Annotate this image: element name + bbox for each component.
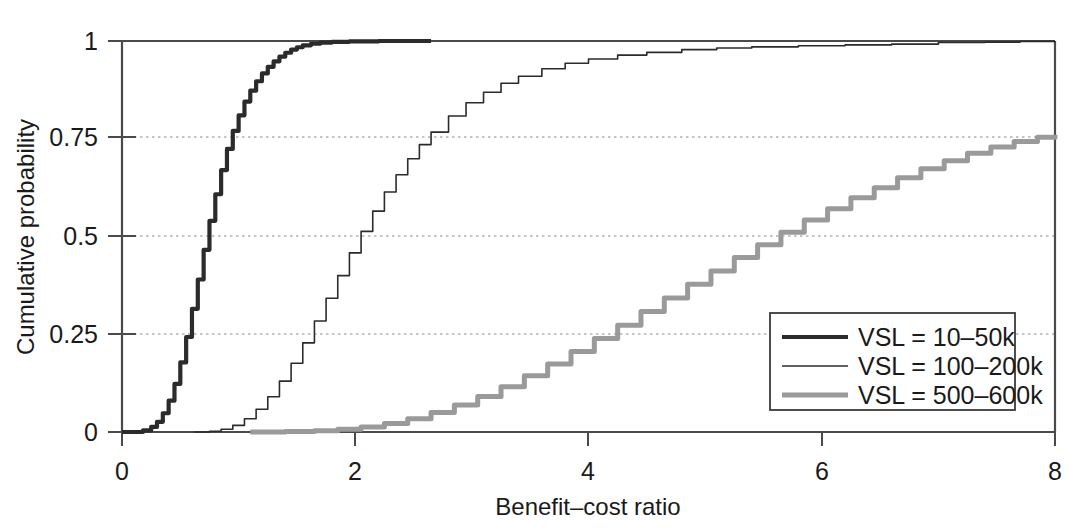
x-tick-label-4: 4 [581, 457, 595, 485]
legend-label-vsl-100-200k: VSL = 100–200k [858, 352, 1043, 380]
legend-label-vsl-500-600k: VSL = 500–600k [858, 381, 1043, 409]
x-tick-label-8: 8 [1048, 457, 1062, 485]
y-axis-tick-labels: 1 0.75 0.5 0.25 0 [49, 27, 98, 446]
y-tick-label-1: 1 [84, 27, 98, 55]
legend-label-vsl-10-50k: VSL = 10–50k [858, 323, 1015, 351]
series-line-1 [122, 41, 431, 432]
y-axis-title: Cumulative probability [12, 119, 39, 355]
chart-page: 1 0.75 0.5 0.25 0 0 2 4 6 8 Benefit–cost… [0, 0, 1086, 530]
x-axis-title: Benefit–cost ratio [495, 493, 680, 520]
cumulative-probability-chart: 1 0.75 0.5 0.25 0 0 2 4 6 8 Benefit–cost… [0, 0, 1086, 530]
x-tick-label-2: 2 [348, 457, 362, 485]
x-tick-label-6: 6 [815, 457, 829, 485]
gridlines [122, 137, 1055, 334]
y-tick-label-0: 0 [84, 418, 98, 446]
y-tick-label-0-25: 0.25 [49, 320, 98, 348]
y-tick-label-0-75: 0.75 [49, 123, 98, 151]
x-axis-tick-labels: 0 2 4 6 8 [115, 457, 1062, 485]
legend: VSL = 10–50k VSL = 100–200k VSL = 500–60… [770, 313, 1043, 410]
y-tick-label-0-5: 0.5 [63, 222, 98, 250]
x-tick-label-0: 0 [115, 457, 129, 485]
